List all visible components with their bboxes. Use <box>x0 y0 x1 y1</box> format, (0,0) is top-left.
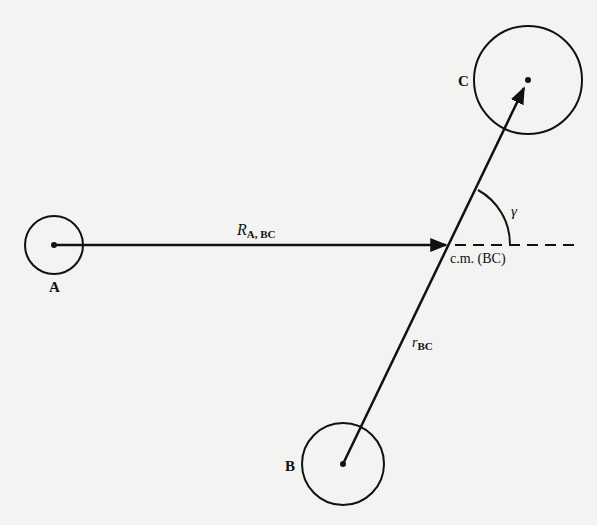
center-of-mass-label: c.m. (BC) <box>450 251 506 267</box>
angle-gamma-label: γ <box>511 203 518 219</box>
atom-c <box>474 26 582 134</box>
diagram-canvas: A RA, BC B C rBC c.m. (BC) γ <box>0 0 597 525</box>
atom-b-label: B <box>285 458 295 474</box>
angle-gamma-arc <box>478 190 510 245</box>
r-bc-label: rBC <box>412 335 433 352</box>
r-a-bc-label: RA, BC <box>236 221 276 240</box>
jacobi-coordinate-diagram: A RA, BC B C rBC c.m. (BC) γ <box>0 0 597 525</box>
atom-a-label: A <box>49 279 60 295</box>
r-bc-vector <box>343 88 524 464</box>
atom-c-label: C <box>458 73 469 89</box>
